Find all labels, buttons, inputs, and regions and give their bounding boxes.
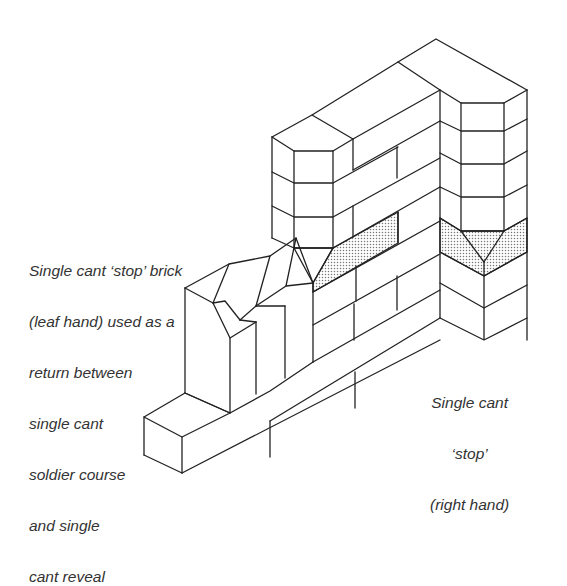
left-callout-line: cant reveal — [29, 568, 182, 585]
left-callout-line: soldier course — [29, 466, 182, 483]
lower-wall — [182, 221, 440, 473]
left-callout-line: (leaf hand) used as a — [29, 313, 182, 330]
left-callout-line: single cant — [29, 415, 182, 432]
soldier-course — [185, 238, 313, 413]
left-callout-line: Single cant ‘stop’ brick — [29, 262, 182, 279]
left-callout-line: return between — [29, 364, 182, 381]
right-callout-line: ‘stop’ — [430, 445, 509, 462]
left-callout-line: and single — [29, 517, 182, 534]
right-callout-line: (right hand) — [430, 496, 509, 513]
right-pier — [440, 90, 527, 340]
shaded-stop-bricks — [294, 212, 527, 292]
right-stop-brick-callout: Single cant ‘stop’ (right hand) — [430, 360, 509, 530]
right-callout-line: Single cant — [430, 394, 509, 411]
left-stop-brick-callout: Single cant ‘stop’ brick (leaf hand) use… — [29, 228, 182, 586]
left-pier — [272, 121, 440, 248]
wall-top — [272, 39, 527, 151]
